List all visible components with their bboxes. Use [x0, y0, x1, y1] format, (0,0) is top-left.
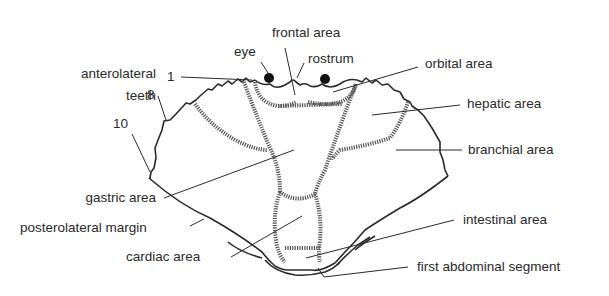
crab-carapace-diagram: anterolateral teeth 1 8 10 eye frontal a…	[0, 0, 609, 296]
label-posterolateral-margin: posterolateral margin	[20, 221, 147, 235]
leader-eye	[261, 62, 268, 73]
left-eye-icon	[264, 73, 274, 83]
carapace-grooves	[195, 82, 408, 262]
leader-rostrum	[297, 63, 304, 78]
label-orbital-area: orbital area	[425, 57, 493, 71]
leader-tooth-10	[132, 134, 150, 172]
label-first-abdominal-segment: first abdominal segment	[417, 260, 560, 274]
right-eye-icon	[320, 74, 330, 84]
leader-hepatic-area	[372, 105, 460, 115]
leader-frontal-area	[285, 48, 295, 95]
label-gastric-area: gastric area	[40, 191, 156, 205]
leader-orbital-area	[333, 67, 418, 92]
carapace-outline	[149, 78, 448, 275]
label-rostrum: rostrum	[308, 52, 354, 66]
leader-tooth-1	[181, 77, 252, 80]
leader-posterolateral-margin	[190, 219, 204, 226]
leader-gastric-area	[164, 150, 294, 198]
label-branchial-area: branchial area	[468, 143, 554, 157]
label-anterolateral: anterolateral	[28, 67, 156, 81]
label-intestinal-area: intestinal area	[463, 213, 547, 227]
label-tooth-8: 8	[147, 88, 155, 102]
label-tooth-10: 10	[113, 117, 128, 131]
label-cardiac-area: cardiac area	[126, 250, 200, 264]
leader-intestinal-area	[306, 220, 454, 258]
label-hepatic-area: hepatic area	[467, 97, 541, 111]
label-frontal-area: frontal area	[272, 26, 340, 40]
label-eye: eye	[234, 45, 256, 59]
leader-first-abdominal-segment	[324, 267, 408, 277]
leader-tooth-8	[158, 96, 166, 120]
label-tooth-1: 1	[167, 70, 175, 84]
label-teeth: teeth	[28, 89, 156, 103]
